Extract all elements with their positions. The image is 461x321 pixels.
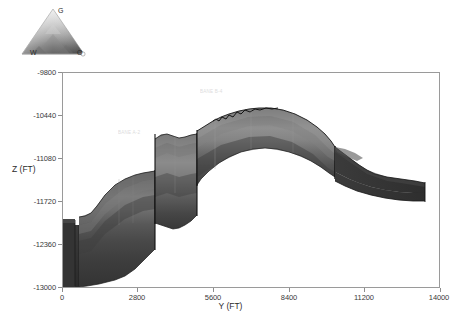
plot-area <box>62 72 440 288</box>
xtick-mark-0 <box>62 288 63 292</box>
reservoir-cross-section-figure: G W O -9800 -10440 -11080 -11720 -12360 … <box>0 0 461 321</box>
well-annotation-1: BANE B-4 <box>200 89 223 94</box>
well-annotation-0: BANE A-2 <box>118 130 140 135</box>
fault-block-5 <box>335 147 425 202</box>
ternary-saturation-legend: G W O <box>14 4 92 62</box>
xtick-mark-3 <box>289 288 290 292</box>
ytick-label-5: -13000 <box>14 283 56 292</box>
reservoir-geometry <box>63 73 439 287</box>
ternary-apex-oil-label: O <box>77 49 83 56</box>
xtick-mark-1 <box>137 288 138 292</box>
ytick-label-0: -9800 <box>14 68 56 77</box>
fault-block-3 <box>155 133 197 229</box>
y-axis-label: Z (FT) <box>12 164 36 174</box>
ytick-label-2: -11080 <box>14 154 56 163</box>
fault-block-4 <box>197 108 335 186</box>
ternary-apex-gas-label: G <box>58 7 64 14</box>
xtick-mark-2 <box>213 288 214 292</box>
ytick-label-3: -11720 <box>14 197 56 206</box>
ytick-label-4: -12360 <box>14 240 56 249</box>
ternary-apex-water-label: W <box>30 49 37 56</box>
xtick-mark-5 <box>440 288 441 292</box>
fault-block-2 <box>79 170 155 287</box>
xtick-mark-4 <box>364 288 365 292</box>
ytick-label-1: -10440 <box>14 111 56 120</box>
fault-block-1 <box>63 219 79 287</box>
x-axis-label: Y (FT) <box>0 301 461 311</box>
